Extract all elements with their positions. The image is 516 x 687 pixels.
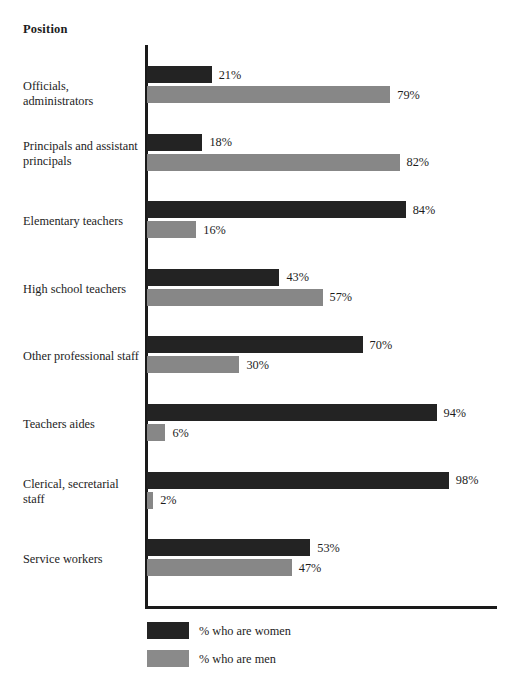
category-label: Teachers aides	[23, 417, 139, 432]
bar-value-label: 70%	[370, 337, 393, 352]
bar-men	[147, 154, 400, 171]
bar-women	[147, 472, 449, 489]
bar-value-label: 57%	[330, 290, 353, 305]
bar-row: 30%	[147, 356, 239, 373]
bar-women	[147, 404, 437, 421]
category-label: Elementary teachers	[23, 214, 139, 229]
bar-row: 16%	[147, 221, 196, 238]
bar-row: 57%	[147, 289, 323, 306]
bar-group: Principals and assistant principals18%82…	[0, 113, 516, 181]
bar-women	[147, 539, 310, 556]
bar-row: 2%	[147, 492, 153, 509]
legend-swatch-men-icon	[147, 650, 189, 667]
bar-women	[147, 336, 363, 353]
bar-chart: Position Officials, administrators21%79%…	[0, 0, 516, 687]
bar-men	[147, 424, 165, 441]
bar-row: 84%	[147, 201, 406, 218]
category-label: Other professional staff	[23, 349, 139, 364]
bar-value-label: 16%	[203, 222, 226, 237]
bar-value-label: 79%	[397, 87, 420, 102]
bar-group: Elementary teachers84%16%	[0, 180, 516, 248]
bar-row: 6%	[147, 424, 165, 441]
bar-value-label: 98%	[456, 473, 479, 488]
bar-group: Other professional staff70%30%	[0, 315, 516, 383]
bar-row: 79%	[147, 86, 390, 103]
category-label: Service workers	[23, 552, 139, 567]
bar-group: Officials, administrators21%79%	[0, 45, 516, 113]
bar-men	[147, 289, 323, 306]
bar-row: 70%	[147, 336, 363, 353]
bar-group: High school teachers43%57%	[0, 248, 516, 316]
bar-value-label: 2%	[160, 493, 176, 508]
bar-row: 94%	[147, 404, 437, 421]
bar-row: 98%	[147, 472, 449, 489]
bar-women	[147, 66, 212, 83]
legend-swatch-women-icon	[147, 622, 189, 639]
bar-women	[147, 134, 202, 151]
bar-row: 47%	[147, 559, 292, 576]
bar-value-label: 21%	[219, 67, 242, 82]
bar-row: 53%	[147, 539, 310, 556]
bar-men	[147, 356, 239, 373]
bar-group: Service workers53%47%	[0, 518, 516, 586]
bar-value-label: 47%	[299, 560, 322, 575]
y-axis-title: Position	[23, 22, 68, 37]
bar-row: 82%	[147, 154, 400, 171]
category-label: Clerical, secretarial staff	[23, 477, 139, 507]
bar-value-label: 43%	[286, 270, 309, 285]
bar-women	[147, 269, 279, 286]
legend-label-women: % who are women	[199, 623, 291, 638]
bar-row: 43%	[147, 269, 279, 286]
bar-men	[147, 86, 390, 103]
bar-value-label: 94%	[444, 405, 467, 420]
bar-value-label: 84%	[413, 202, 436, 217]
category-label: High school teachers	[23, 282, 139, 297]
bar-value-label: 6%	[172, 425, 188, 440]
legend-label-men: % who are men	[199, 651, 276, 666]
bar-value-label: 30%	[246, 357, 269, 372]
x-axis-line	[145, 606, 497, 609]
bar-men	[147, 559, 292, 576]
category-label: Principals and assistant principals	[23, 139, 139, 169]
bar-men	[147, 221, 196, 238]
bar-group: Clerical, secretarial staff98%2%	[0, 451, 516, 519]
bar-row: 18%	[147, 134, 202, 151]
bar-men	[147, 492, 153, 509]
category-label: Officials, administrators	[23, 79, 139, 109]
bar-women	[147, 201, 406, 218]
bar-value-label: 53%	[317, 540, 340, 555]
bar-value-label: 18%	[209, 135, 232, 150]
bar-value-label: 82%	[407, 155, 430, 170]
bar-row: 21%	[147, 66, 212, 83]
bar-group: Teachers aides94%6%	[0, 383, 516, 451]
